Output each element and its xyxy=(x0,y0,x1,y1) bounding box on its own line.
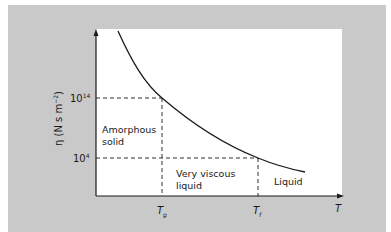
y-tick-1e4: 104 xyxy=(73,152,90,164)
region-liquid: Liquid xyxy=(274,176,303,187)
region-very-viscous-liquid-line1: Very viscous xyxy=(176,168,235,179)
region-very-viscous-liquid-line2: liquid xyxy=(176,180,202,191)
x-axis-label: T xyxy=(335,203,342,214)
y-axis-label: η (N s m−2) xyxy=(52,91,64,146)
y-tick-1e14: 1014 xyxy=(70,92,91,104)
viscosity-chart: 1014 104 η (N s m−2) Tg Tf T Amorphous s… xyxy=(0,0,391,232)
x-tick-tf: Tf xyxy=(253,205,262,218)
region-amorphous-solid-line2: solid xyxy=(102,136,124,147)
x-tick-tg: Tg xyxy=(157,205,167,219)
region-amorphous-solid-line1: Amorphous xyxy=(102,124,156,135)
